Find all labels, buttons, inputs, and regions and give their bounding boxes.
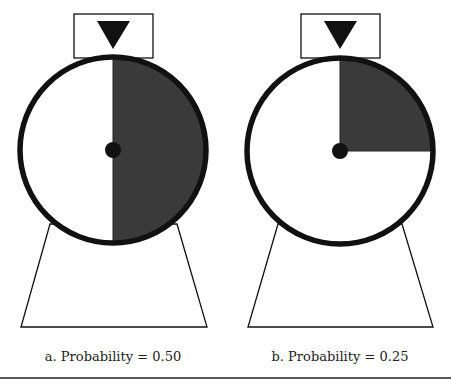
spinner-a-shaded-sector: [113, 57, 206, 243]
probability-wheels-figure: [0, 0, 451, 384]
spinner-b: [247, 14, 433, 327]
spinner-a-hub: [105, 142, 121, 158]
caption-a: a. Probability = 0.50: [20, 346, 206, 368]
spinner-a: [20, 14, 207, 327]
spinner-b-hub: [332, 143, 348, 159]
caption-b: b. Probability = 0.25: [247, 346, 433, 368]
